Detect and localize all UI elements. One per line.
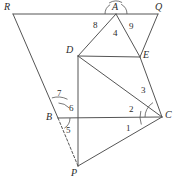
vertex-label-R: R: [4, 2, 10, 12]
angle-2-label: 2: [129, 105, 134, 114]
arc-C-2: [145, 110, 147, 117]
vertex-label-C: C: [165, 110, 172, 120]
arc-A-right: [121, 4, 127, 14]
angle-8-label: 8: [93, 21, 98, 30]
arc-C-1: [140, 111, 141, 125]
segment-DE: [78, 56, 140, 57]
segment-RB: [13, 14, 58, 118]
angle-6-label: 6: [69, 104, 74, 113]
vertex-label-B: B: [46, 112, 52, 122]
arc-B-6: [59, 103, 69, 108]
segment-PC: [78, 117, 162, 166]
angle-5-label: 5: [66, 126, 71, 135]
angle-7-label: 7: [57, 89, 62, 98]
vertex-label-A: A: [112, 2, 118, 12]
angle-4-label: 4: [113, 29, 118, 38]
segment-BC: [58, 117, 162, 118]
angle-3-label: 3: [141, 86, 146, 95]
segment-DC: [78, 56, 162, 117]
vertex-label-Q: Q: [155, 2, 162, 12]
angle-9-label: 9: [129, 22, 134, 31]
vertex-label-P: P: [71, 168, 77, 178]
segment-AE: [116, 14, 140, 57]
geometry-figure: RQADEBCP123456789: [0, 0, 176, 184]
angle-1-label: 1: [126, 124, 131, 133]
geometry-canvas: [0, 0, 176, 184]
arc-A-left: [105, 5, 110, 14]
vertex-label-D: D: [66, 45, 73, 55]
vertex-label-E: E: [143, 50, 149, 60]
